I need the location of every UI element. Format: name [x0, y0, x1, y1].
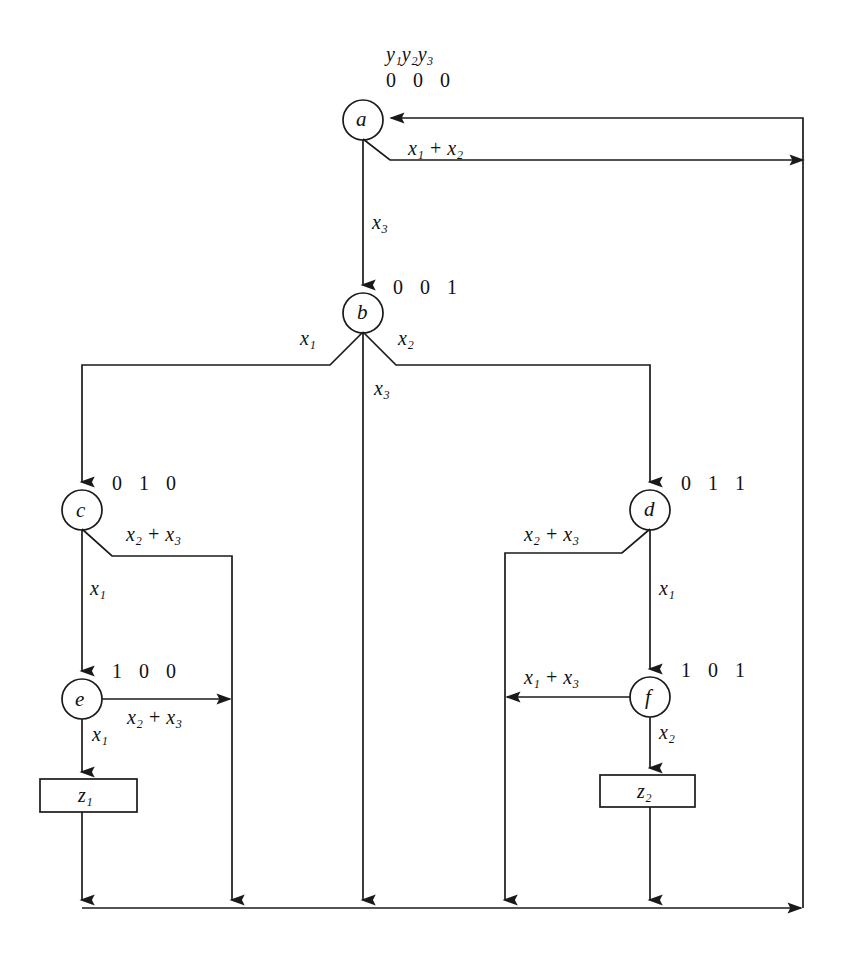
- state-code-c: 0 1 0: [112, 473, 182, 493]
- state-variable-header: y₁y₂y₃: [386, 44, 434, 64]
- state-code-d: 0 1 1: [681, 473, 751, 493]
- edge-label-d-to-branch: x₂ + x₃: [524, 524, 579, 544]
- state-label-b: b: [357, 302, 368, 323]
- edge-b-to-d: [363, 332, 650, 482]
- edge-label-a-to-return: x₁ + x₂: [408, 138, 463, 158]
- edge-label-c-to-branch: x₂ + x₃: [126, 524, 181, 544]
- edge-label-f-to-z2: x₂: [659, 722, 675, 742]
- edge-d-to-branch-bus: [505, 529, 650, 900]
- state-code-e: 1 0 0: [112, 661, 182, 681]
- state-code-a: 0 0 0: [386, 70, 456, 90]
- edge-label-b-to-c: x₁: [300, 328, 316, 348]
- edge-label-e-to-z1: x₁: [92, 724, 108, 744]
- edge-label-c-to-e: x₁: [90, 578, 106, 598]
- output-label-z2: z₂: [637, 781, 652, 801]
- state-label-f: f: [645, 687, 651, 708]
- state-transition-diagram: y₁y₂y₃ 0 0 0 a b 0 0 1 c 0 1 0 d 0 1 1 e…: [0, 0, 842, 959]
- state-code-f: 1 0 1: [681, 660, 751, 680]
- output-label-z1: z₁: [78, 785, 93, 805]
- edge-b-to-c: [82, 332, 363, 482]
- state-label-e: e: [75, 689, 84, 710]
- state-label-d: d: [644, 499, 655, 520]
- state-label-a: a: [356, 109, 367, 130]
- edge-label-d-to-f: x₁: [659, 578, 675, 598]
- edge-label-b-to-bottom: x₃: [374, 378, 390, 398]
- edge-label-f-to-branch: x₁ + x₃: [524, 667, 579, 687]
- state-code-b: 0 0 1: [393, 277, 463, 297]
- edge-label-e-to-branch: x₂ + x₃: [127, 707, 182, 727]
- edge-label-b-to-d: x₂: [398, 328, 414, 348]
- edge-label-a-to-b: x₃: [372, 212, 388, 232]
- state-label-c: c: [76, 500, 85, 521]
